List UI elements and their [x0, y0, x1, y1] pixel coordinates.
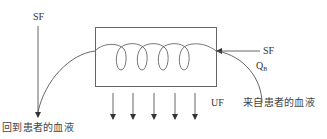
- blood-return-label: 回到患者的血液: [2, 123, 74, 133]
- blood-coil: [95, 44, 216, 70]
- filter-chamber: [96, 28, 217, 87]
- diagram-canvas: [0, 0, 327, 139]
- blood-return-curve: [38, 51, 95, 112]
- blood-from-label: 来自患者的血液: [243, 98, 315, 108]
- uf-arrows: [113, 93, 195, 119]
- qb-label: QB: [256, 61, 267, 72]
- uf-label: UF: [211, 98, 224, 108]
- blood-inflow-curve: [217, 51, 262, 103]
- qb-label-sub: B: [263, 66, 267, 72]
- sf-label-right: SF: [263, 46, 274, 56]
- sf-label-top-left: SF: [33, 12, 44, 22]
